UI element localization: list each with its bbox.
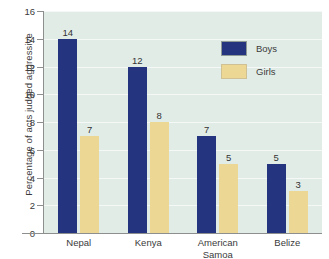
bar-value-label: 3 <box>296 179 301 190</box>
legend-label-girls: Girls <box>256 66 276 77</box>
bar-value-label: 7 <box>204 124 209 135</box>
bar-value-label: 5 <box>274 152 279 163</box>
bar-value-label: 5 <box>226 152 231 163</box>
bar-value-label: 8 <box>157 110 162 121</box>
legend-swatch-boys-icon <box>221 41 247 56</box>
legend-item-girls: Girls <box>221 64 277 79</box>
bar <box>150 122 169 233</box>
bar <box>219 164 238 233</box>
gridline <box>44 67 322 68</box>
bar-value-label: 14 <box>62 27 73 38</box>
legend: Boys Girls <box>221 41 277 87</box>
legend-swatch-girls-icon <box>221 64 247 79</box>
bar <box>128 67 147 234</box>
bar <box>267 164 286 233</box>
gridline <box>44 11 322 12</box>
bar <box>80 136 99 233</box>
y-tick-label: 8 <box>3 117 35 128</box>
bar <box>197 136 216 233</box>
y-tick-label: 6 <box>3 144 35 155</box>
y-axis-line <box>43 11 44 234</box>
bar-chart: Percentage of acts judged aggressive 024… <box>0 0 329 259</box>
gridline <box>44 94 322 95</box>
x-axis-line <box>22 233 322 234</box>
y-tick-label: 10 <box>3 89 35 100</box>
y-tick-label: 14 <box>3 33 35 44</box>
y-tick-label: 2 <box>3 200 35 211</box>
category-label: Nepal <box>66 237 91 249</box>
y-tick-label: 4 <box>3 172 35 183</box>
gridline <box>44 122 322 123</box>
y-tick-label: 12 <box>3 61 35 72</box>
bar-value-label: 7 <box>87 124 92 135</box>
bar <box>289 191 308 233</box>
category-label: American Samoa <box>198 237 238 259</box>
legend-item-boys: Boys <box>221 41 277 56</box>
y-tick-label: 16 <box>3 6 35 17</box>
gridline <box>44 39 322 40</box>
bar-value-label: 12 <box>132 55 143 66</box>
bar <box>58 39 77 233</box>
plot-area <box>44 11 322 233</box>
category-label: Belize <box>274 237 300 249</box>
category-label: Kenya <box>135 237 162 249</box>
legend-label-boys: Boys <box>256 43 277 54</box>
